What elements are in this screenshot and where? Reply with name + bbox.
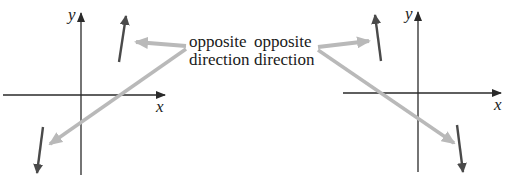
left-down-vector: [37, 127, 43, 173]
diagram-svg: y x y x: [0, 0, 506, 184]
left-annotation: opposite direction: [189, 33, 249, 69]
right-annotation: opposite direction: [254, 33, 314, 69]
right-annotation-line2: direction: [254, 51, 314, 69]
left-y-axis-label: y: [66, 5, 76, 24]
right-up-vector: [375, 15, 381, 61]
right-down-vector: [457, 125, 463, 172]
diagram-canvas: y x y x opposite direction opposit: [0, 0, 506, 184]
right-y-axis-label: y: [403, 4, 413, 23]
right-pointers: [318, 41, 454, 143]
right-annotation-line1: opposite: [254, 33, 314, 51]
right-coordinate-system: y x: [343, 4, 502, 172]
left-up-vector: [119, 16, 126, 62]
left-pointers: [50, 42, 186, 144]
left-x-axis-label: x: [155, 97, 164, 116]
left-coordinate-system: y x: [3, 5, 165, 175]
left-annotation-line2: direction: [189, 51, 249, 69]
left-pointer-to-down-vector: [50, 49, 186, 144]
right-pointer-to-up-vector: [318, 41, 369, 47]
left-annotation-line1: opposite: [189, 33, 249, 51]
left-pointer-to-up-vector: [136, 42, 186, 46]
right-x-axis-label: x: [493, 95, 502, 114]
right-pointer-to-down-vector: [318, 50, 454, 143]
